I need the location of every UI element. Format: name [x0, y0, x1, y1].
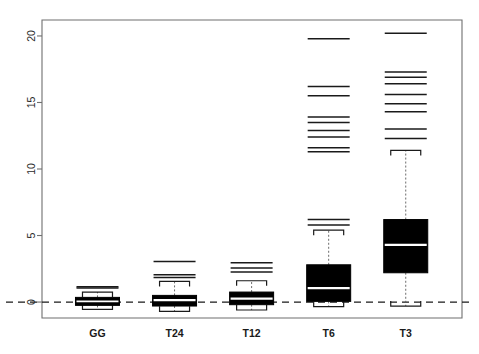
x-category-label-t3: T3 — [400, 327, 412, 339]
y-tick-label: 5 — [25, 232, 37, 238]
boxplot-canvas: 05101520 GGT24T12T6T3 — [0, 0, 479, 354]
boxplot-figure: 05101520 GGT24T12T6T3 — [0, 0, 479, 354]
y-tick-label: 10 — [25, 163, 37, 175]
x-category-label-t12: T12 — [243, 327, 261, 339]
x-category-label-gg: GG — [89, 327, 105, 339]
x-category-label-t6: T6 — [323, 327, 335, 339]
box-iqr — [307, 265, 351, 302]
y-tick-label: 20 — [25, 30, 37, 42]
y-tick-label: 0 — [25, 299, 37, 305]
x-category-label-t24: T24 — [166, 327, 184, 339]
box-iqr — [384, 220, 428, 273]
y-tick-label: 15 — [25, 96, 37, 108]
